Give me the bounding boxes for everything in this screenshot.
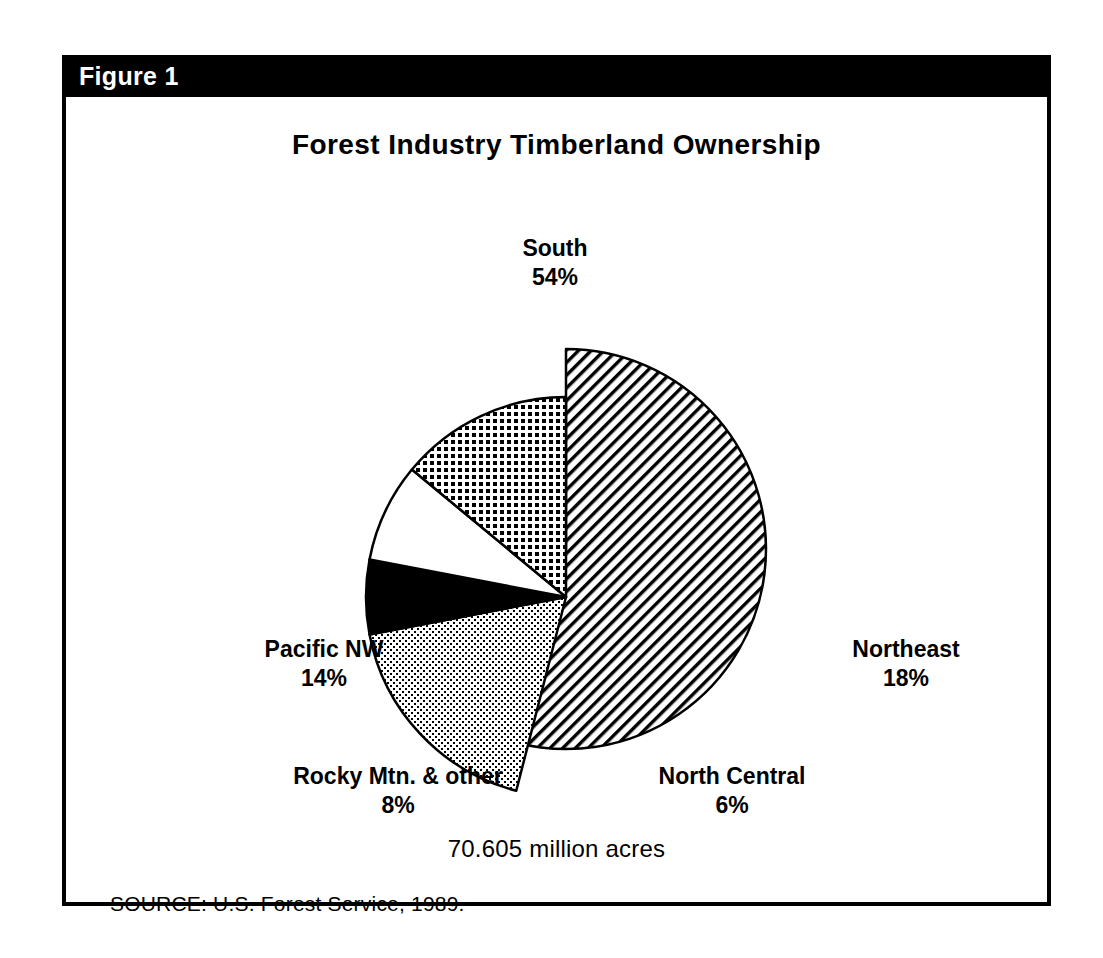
slice-label-north-central-name: North Central bbox=[659, 763, 806, 789]
figure-container: Figure 1 Forest Industry Timberland Owne… bbox=[62, 55, 1051, 906]
figure-number-label: Figure 1 bbox=[79, 62, 179, 90]
slice-label-north-central: North Central 6% bbox=[562, 762, 902, 820]
slice-label-pacific-nw-name: Pacific NW bbox=[265, 636, 384, 662]
slice-label-northeast-name: Northeast bbox=[852, 636, 959, 662]
figure-body-panel: Forest Industry Timberland Ownership bbox=[62, 97, 1051, 906]
slice-label-northeast-pct: 18% bbox=[791, 664, 1021, 693]
slice-label-south-pct: 54% bbox=[445, 263, 665, 292]
slice-label-northeast: Northeast 18% bbox=[791, 635, 1021, 693]
slice-label-pacific-nw: Pacific NW 14% bbox=[209, 635, 439, 693]
slice-label-north-central-pct: 6% bbox=[562, 791, 902, 820]
total-acres-caption: 70.605 million acres bbox=[66, 835, 1047, 863]
slice-label-rocky-mtn-name: Rocky Mtn. & other bbox=[293, 763, 503, 789]
source-note: SOURCE: U.S. Forest Service, 1989. bbox=[110, 892, 465, 916]
slice-label-pacific-nw-pct: 14% bbox=[209, 664, 439, 693]
slice-label-rocky-mtn: Rocky Mtn. & other 8% bbox=[198, 762, 598, 820]
slice-label-south-name: South bbox=[522, 235, 587, 261]
slice-label-south: South 54% bbox=[445, 234, 665, 292]
figure-header-bar: Figure 1 bbox=[62, 55, 1051, 97]
slice-label-rocky-mtn-pct: 8% bbox=[198, 791, 598, 820]
